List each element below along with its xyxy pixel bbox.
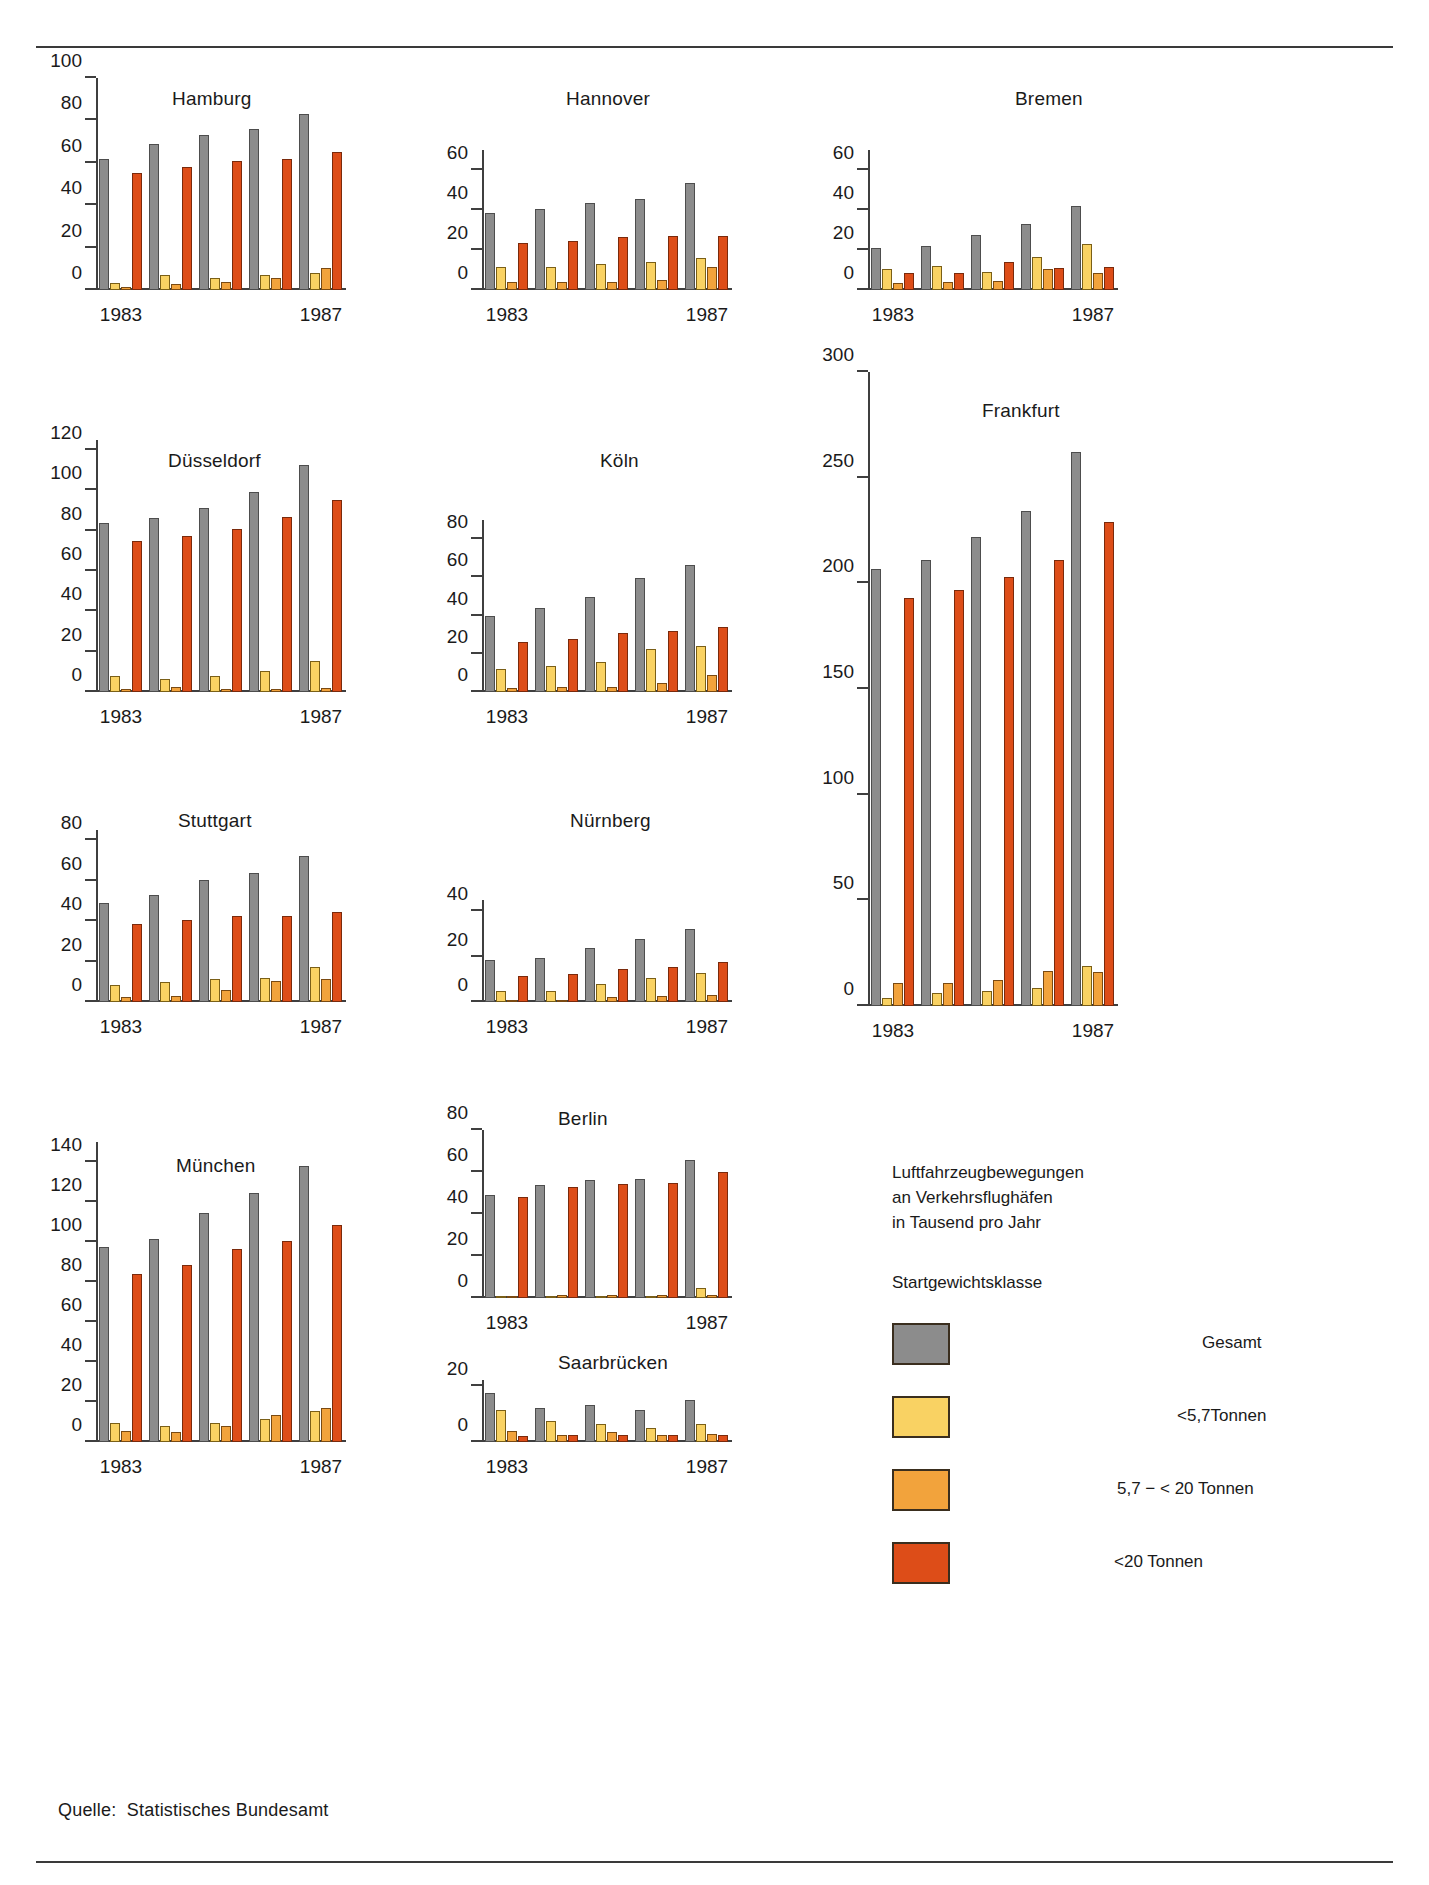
x-tick-label: 1987 (686, 706, 728, 728)
legend-item-mid: 5,7 − < 20 Tonnen (892, 1469, 950, 1511)
bar-total-1985 (585, 1405, 594, 1442)
bar-small-1983 (882, 269, 891, 290)
y-tick (85, 1360, 96, 1362)
y-tick-label: 0 (457, 1271, 468, 1290)
y-tick (85, 118, 96, 120)
bar-large-1984 (568, 974, 577, 1002)
bar-total-1985 (199, 880, 208, 1002)
bar-total-1986 (1021, 224, 1030, 290)
bar-total-1984 (149, 144, 158, 290)
bar-total-1987 (685, 929, 694, 1002)
y-tick (85, 161, 96, 163)
y-tick (471, 248, 482, 250)
plot-area: 020406019831987 (868, 150, 1118, 290)
bar-small-1983 (882, 998, 891, 1006)
bar-small-1987 (310, 661, 319, 692)
y-tick-label: 100 (50, 463, 82, 482)
bar-large-1984 (568, 1187, 577, 1298)
y-tick (471, 652, 482, 654)
bar-total-1984 (921, 560, 930, 1006)
bar-small-1983 (496, 267, 505, 290)
bar-large-1983 (132, 173, 141, 290)
bar-large-1984 (954, 590, 963, 1006)
bar-mid-1987 (707, 267, 716, 290)
bar-mid-1987 (707, 1434, 716, 1442)
y-axis-line (96, 830, 98, 1002)
y-axis-line (96, 1142, 98, 1442)
bar-small-1983 (110, 283, 119, 290)
bar-total-1985 (971, 235, 980, 290)
y-tick-label: 0 (457, 263, 468, 282)
bar-large-1983 (904, 273, 913, 290)
y-tick-label: 0 (71, 263, 82, 282)
bar-total-1986 (635, 199, 644, 290)
bar-large-1987 (332, 912, 341, 1002)
bar-small-1985 (982, 272, 991, 290)
bar-mid-1984 (557, 1295, 566, 1298)
x-tick-label: 1987 (1072, 1020, 1114, 1042)
y-axis-line (482, 900, 484, 1002)
y-axis-line (482, 1130, 484, 1298)
bar-mid-1986 (271, 689, 280, 692)
bar-large-1985 (618, 1435, 627, 1442)
bar-mid-1986 (657, 1295, 666, 1298)
y-tick-label: 20 (447, 1229, 468, 1248)
bar-small-1986 (646, 1428, 655, 1442)
bar-small-1987 (696, 646, 705, 692)
chart-title: Nürnberg (570, 810, 651, 832)
y-tick-label: 50 (833, 873, 854, 892)
bar-mid-1986 (271, 1415, 280, 1442)
bar-mid-1983 (121, 689, 130, 692)
bar-large-1985 (232, 161, 241, 290)
y-tick-label: 60 (61, 853, 82, 872)
bar-large-1983 (518, 642, 527, 692)
bar-small-1983 (110, 1423, 119, 1442)
legend-swatch-small (892, 1396, 950, 1438)
bar-small-1987 (310, 273, 319, 290)
y-tick-label: 0 (843, 979, 854, 998)
bar-total-1985 (585, 597, 594, 692)
bar-total-1986 (249, 873, 258, 1003)
chart-title: Köln (600, 450, 639, 472)
bar-small-1985 (210, 278, 219, 290)
bar-total-1984 (535, 209, 544, 290)
y-tick (85, 690, 96, 692)
bar-total-1985 (585, 1180, 594, 1298)
x-tick-label: 1987 (300, 1016, 342, 1038)
y-tick (857, 898, 868, 900)
bar-total-1983 (99, 523, 108, 692)
x-tick-label: 1987 (1072, 304, 1114, 326)
y-tick (857, 208, 868, 210)
bar-mid-1984 (557, 1435, 566, 1442)
bar-mid-1987 (321, 1408, 330, 1442)
y-tick (85, 288, 96, 290)
bar-total-1985 (199, 508, 208, 692)
bar-large-1987 (332, 152, 341, 290)
bar-total-1986 (635, 1410, 644, 1442)
bar-large-1984 (182, 920, 191, 1002)
bar-small-1984 (546, 267, 555, 290)
bar-total-1984 (149, 518, 158, 692)
bar-small-1985 (210, 676, 219, 692)
y-tick (471, 288, 482, 290)
y-tick (85, 1240, 96, 1242)
y-axis-line (868, 372, 870, 1006)
y-tick-label: 200 (822, 556, 854, 575)
y-tick (471, 955, 482, 957)
bar-mid-1983 (893, 983, 902, 1006)
y-tick (85, 609, 96, 611)
y-tick-label: 60 (447, 1145, 468, 1164)
y-tick (471, 168, 482, 170)
bar-mid-1984 (943, 983, 952, 1006)
bar-small-1984 (546, 991, 555, 1002)
y-tick-label: 80 (61, 503, 82, 522)
bar-total-1983 (485, 1195, 494, 1298)
top-divider-rule (36, 46, 1393, 48)
y-tick (857, 288, 868, 290)
bar-small-1987 (310, 1411, 319, 1442)
bar-small-1983 (496, 1410, 505, 1442)
bar-total-1983 (485, 960, 494, 1002)
legend-item-large: <20 Tonnen (892, 1542, 950, 1584)
bar-mid-1983 (893, 283, 902, 290)
bar-small-1985 (210, 979, 219, 1002)
